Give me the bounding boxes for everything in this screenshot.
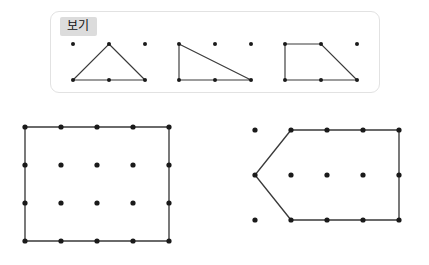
reference-shape-trapezoid-svg [275,38,375,94]
grid-dot [319,42,323,46]
grid-dot [360,127,365,132]
worksheet-canvas: 보기 [0,0,429,265]
shape-outline [285,44,357,80]
reference-shape-right-triangle [169,38,269,94]
grid-dot [94,124,99,129]
grid-dot [107,42,111,46]
grid-dot [213,42,217,46]
reference-shape-triangle-svg [63,38,163,94]
grid-dot [360,172,365,177]
grid-dot [252,127,257,132]
grid-dot [324,172,329,177]
grid-dot [252,217,257,222]
grid-dot [288,217,293,222]
grid-dot [177,42,181,46]
grid-dot [130,124,135,129]
grid-dot [360,217,365,222]
grid-dot [58,124,63,129]
grid-dot [22,162,27,167]
shape-outline [73,44,145,80]
grid-dot [249,42,253,46]
grid-dot [288,172,293,177]
grid-dot [355,42,359,46]
reference-shape-trapezoid [275,38,375,94]
reference-shape-triangle [63,38,163,94]
grid-dot [22,238,27,243]
grid-dot [71,78,75,82]
grid-dot [252,172,257,177]
grid-dot [107,78,111,82]
grid-dot [249,78,253,82]
grid-dot [130,238,135,243]
grid-dot [166,162,171,167]
grid-dot [130,200,135,205]
figure-arrow-pentagon-svg [248,123,408,228]
grid-dot [71,42,75,46]
grid-dot [324,217,329,222]
grid-dot [94,238,99,243]
grid-dot [319,78,323,82]
grid-dot [58,200,63,205]
grid-dot [22,200,27,205]
grid-dot [283,42,287,46]
grid-dot [130,162,135,167]
grid-dot [143,42,147,46]
grid-dot [166,200,171,205]
grid-dot [22,124,27,129]
reference-shape-right-triangle-svg [169,38,269,94]
grid-dot [94,162,99,167]
reference-panel-label: 보기 [60,17,97,36]
grid-dot [288,127,293,132]
shape-outline [25,127,169,241]
figure-rectangle [18,120,183,250]
grid-dot [355,78,359,82]
grid-dot [166,238,171,243]
grid-dot [396,127,401,132]
reference-shape-row [51,38,381,94]
shape-outline [179,44,251,80]
reference-panel: 보기 [50,11,380,93]
grid-dot [213,78,217,82]
grid-dot [324,127,329,132]
grid-dot [396,217,401,222]
grid-dot [94,200,99,205]
grid-dot [143,78,147,82]
grid-dot [396,172,401,177]
grid-dot [177,78,181,82]
figure-arrow-pentagon [248,123,408,228]
grid-dot [283,78,287,82]
grid-dot [58,238,63,243]
grid-dot [166,124,171,129]
grid-dot [58,162,63,167]
figure-rectangle-svg [18,120,183,250]
